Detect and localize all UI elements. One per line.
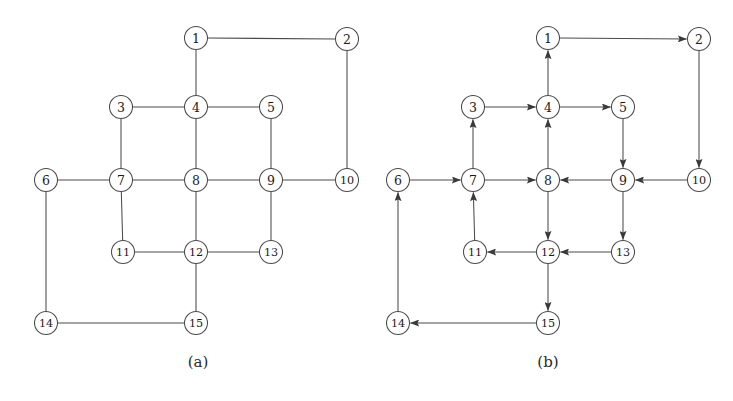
node-label: 2 (695, 32, 703, 47)
node-label: 15 (541, 317, 555, 330)
edge (121, 192, 122, 240)
graph-node-8[interactable]: 8 (185, 169, 208, 192)
node-label: 12 (189, 246, 203, 259)
edges-layer (46, 38, 699, 323)
node-label: 1 (192, 31, 200, 46)
node-label: 8 (544, 173, 552, 188)
directed-edge (560, 38, 686, 39)
figure-container: 1234567891011121314151234567891011121314… (0, 0, 733, 401)
graph-node-11[interactable]: 11 (464, 241, 487, 264)
graph-node-10[interactable]: 10 (336, 169, 359, 192)
graph-node-6[interactable]: 6 (387, 169, 410, 192)
node-label: 9 (619, 173, 627, 188)
node-label: 15 (189, 317, 203, 330)
graph-node-5[interactable]: 5 (612, 96, 635, 119)
graph-node-1[interactable]: 1 (185, 27, 208, 50)
graph-node-3[interactable]: 3 (110, 96, 133, 119)
graph-figure-canvas: 1234567891011121314151234567891011121314… (0, 0, 733, 401)
graph-node-7[interactable]: 7 (110, 169, 133, 192)
graph-node-14[interactable]: 14 (387, 312, 410, 335)
node-label: 12 (541, 246, 555, 259)
node-label: 5 (619, 100, 627, 115)
node-label: 7 (469, 173, 477, 188)
node-label: 7 (117, 173, 125, 188)
node-label: 9 (267, 173, 275, 188)
graph-node-2[interactable]: 2 (336, 28, 359, 51)
node-label: 5 (267, 100, 275, 115)
node-label: 4 (544, 100, 552, 115)
node-label: 1 (544, 31, 552, 46)
node-label: 14 (391, 317, 405, 330)
directed-edge (473, 193, 474, 240)
node-label: 4 (192, 100, 200, 115)
graph-node-7[interactable]: 7 (462, 169, 485, 192)
graph-node-8[interactable]: 8 (537, 169, 560, 192)
graph-node-13[interactable]: 13 (612, 241, 635, 264)
node-label: 13 (264, 246, 278, 259)
node-label: 10 (692, 174, 706, 187)
graph-node-4[interactable]: 4 (537, 96, 560, 119)
graph-node-15[interactable]: 15 (185, 312, 208, 335)
node-label: 13 (616, 246, 630, 259)
graph-node-11[interactable]: 11 (112, 241, 135, 264)
graph-node-9[interactable]: 9 (612, 169, 635, 192)
graph-node-1[interactable]: 1 (537, 27, 560, 50)
node-label: 3 (117, 100, 125, 115)
panel-b-caption: (b) (537, 353, 558, 371)
graph-node-5[interactable]: 5 (260, 96, 283, 119)
graph-node-6[interactable]: 6 (35, 169, 58, 192)
graph-node-12[interactable]: 12 (185, 241, 208, 264)
graph-node-13[interactable]: 13 (260, 241, 283, 264)
node-label: 8 (192, 173, 200, 188)
panel-a-caption: (a) (188, 353, 209, 371)
node-label: 2 (343, 32, 351, 47)
graph-node-9[interactable]: 9 (260, 169, 283, 192)
graph-node-2[interactable]: 2 (688, 28, 711, 51)
graph-node-15[interactable]: 15 (537, 312, 560, 335)
edge (208, 38, 335, 39)
graph-node-14[interactable]: 14 (35, 312, 58, 335)
graph-node-10[interactable]: 10 (688, 169, 711, 192)
node-label: 11 (116, 246, 130, 259)
node-label: 10 (340, 174, 354, 187)
node-label: 6 (394, 173, 402, 188)
graph-node-4[interactable]: 4 (185, 96, 208, 119)
node-label: 3 (469, 100, 477, 115)
node-label: 6 (42, 173, 50, 188)
node-label: 14 (39, 317, 53, 330)
graph-node-3[interactable]: 3 (462, 96, 485, 119)
graph-node-12[interactable]: 12 (537, 241, 560, 264)
node-label: 11 (468, 246, 482, 259)
